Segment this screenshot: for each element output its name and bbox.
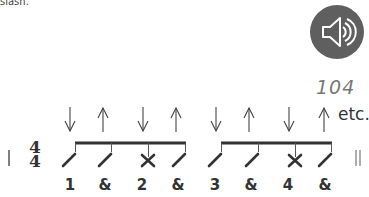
count-label: 2 bbox=[134, 176, 150, 194]
up-arrow-icon bbox=[171, 108, 181, 132]
slash-note bbox=[246, 154, 258, 166]
slash-note bbox=[173, 154, 185, 166]
up-arrow-icon bbox=[319, 108, 329, 132]
slash-note bbox=[319, 154, 331, 166]
rhythm-notation bbox=[0, 0, 369, 197]
count-label: 3 bbox=[207, 176, 223, 194]
count-label: & bbox=[317, 176, 333, 194]
count-label: & bbox=[243, 176, 259, 194]
down-arrow-icon bbox=[284, 107, 294, 131]
slash-note bbox=[99, 154, 111, 166]
up-arrow-icon bbox=[244, 108, 254, 132]
count-label: 1 bbox=[62, 176, 78, 194]
count-label: & bbox=[97, 176, 113, 194]
slash-note bbox=[209, 154, 221, 166]
down-arrow-icon bbox=[211, 107, 221, 131]
down-arrow-icon bbox=[138, 107, 148, 131]
count-label: 4 bbox=[280, 176, 296, 194]
count-label: & bbox=[170, 176, 186, 194]
slash-note bbox=[63, 154, 75, 166]
down-arrow-icon bbox=[65, 107, 75, 131]
up-arrow-icon bbox=[98, 108, 108, 132]
